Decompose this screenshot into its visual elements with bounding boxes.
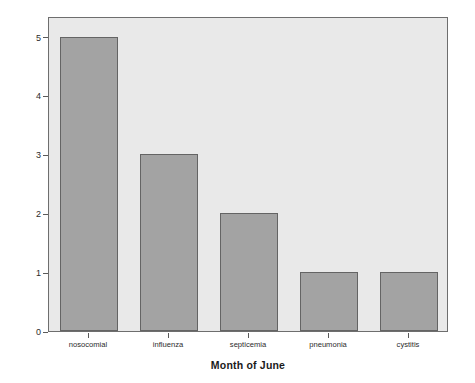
y-tick-label: 2 xyxy=(27,210,41,219)
y-tick-label: 0 xyxy=(27,328,41,337)
x-tick-label: pneumonia xyxy=(309,340,347,349)
bar xyxy=(220,213,278,331)
y-tick-label: 3 xyxy=(27,151,41,160)
bar xyxy=(140,154,198,331)
y-tick-label: 4 xyxy=(27,92,41,101)
y-tick-label: 5 xyxy=(27,33,41,42)
x-tick-mark xyxy=(248,333,249,338)
plot-area xyxy=(48,17,448,332)
x-tick-label: influenza xyxy=(153,340,183,349)
x-tick-mark xyxy=(408,333,409,338)
bar-chart: Count 012345 nosocomialinfluenzasepticem… xyxy=(0,0,475,383)
bar xyxy=(380,272,438,331)
x-tick-mark xyxy=(328,333,329,338)
x-axis-title: Month of June xyxy=(48,359,448,371)
x-tick-mark xyxy=(168,333,169,338)
bar xyxy=(300,272,358,331)
x-tick-label: nosocomial xyxy=(69,340,107,349)
bar xyxy=(60,37,118,331)
x-tick-label: cystitis xyxy=(397,340,420,349)
y-tick-label: 1 xyxy=(27,269,41,278)
x-tick-mark xyxy=(88,333,89,338)
x-tick-label: septicemia xyxy=(230,340,266,349)
